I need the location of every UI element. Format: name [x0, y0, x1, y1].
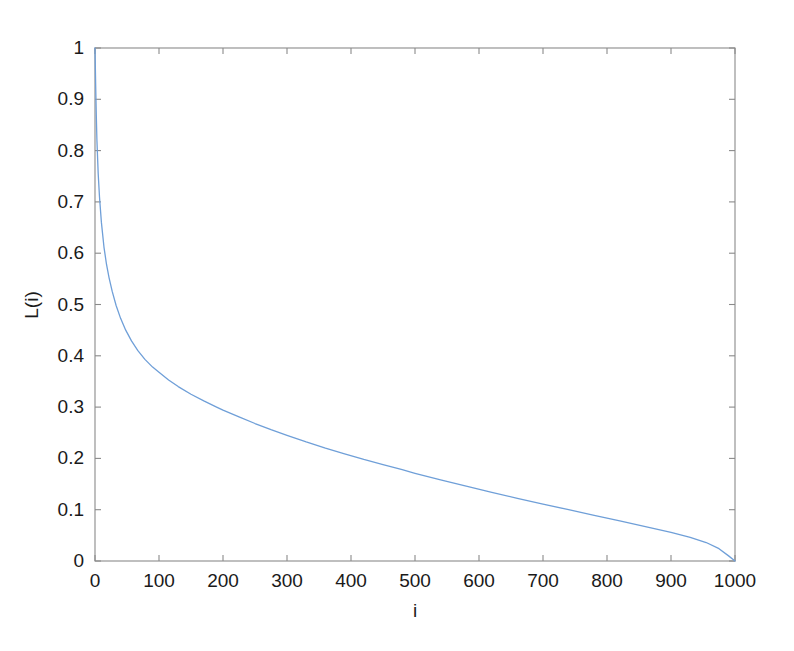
- x-tick-label: 0: [90, 570, 101, 591]
- x-tick-label: 900: [655, 570, 687, 591]
- y-tick-label: 1: [73, 37, 84, 58]
- y-tick-label: 0.4: [58, 345, 85, 366]
- y-tick-label: 0: [73, 550, 84, 571]
- x-tick-label: 400: [335, 570, 367, 591]
- x-tick-label: 500: [399, 570, 431, 591]
- x-axis-label: i: [413, 600, 417, 621]
- x-tick-label: 700: [527, 570, 559, 591]
- y-axis-label: L(i): [21, 291, 42, 318]
- y-tick-label: 0.1: [58, 499, 84, 520]
- y-tick-label: 0.9: [58, 88, 84, 109]
- y-tick-label: 0.5: [58, 294, 84, 315]
- x-tick-label: 600: [463, 570, 495, 591]
- x-tick-label: 100: [143, 570, 175, 591]
- figure-container: 01002003004005006007008009001000 00.10.2…: [0, 0, 794, 651]
- x-tick-label: 1000: [714, 570, 756, 591]
- y-tick-label: 0.6: [58, 242, 84, 263]
- y-tick-label: 0.7: [58, 191, 84, 212]
- x-tick-label: 300: [271, 570, 303, 591]
- y-tick-label: 0.3: [58, 396, 84, 417]
- y-tick-label: 0.8: [58, 140, 84, 161]
- x-tick-label: 800: [591, 570, 623, 591]
- y-tick-label: 0.2: [58, 447, 84, 468]
- chart-canvas: 01002003004005006007008009001000 00.10.2…: [0, 0, 794, 651]
- x-tick-label: 200: [207, 570, 239, 591]
- figure-background: [0, 0, 794, 651]
